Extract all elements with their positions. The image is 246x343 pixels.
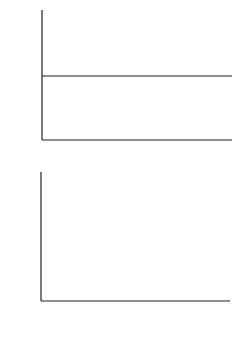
time-series-chart xyxy=(0,0,232,140)
spectrum-chart xyxy=(0,0,230,301)
figure xyxy=(0,0,246,343)
